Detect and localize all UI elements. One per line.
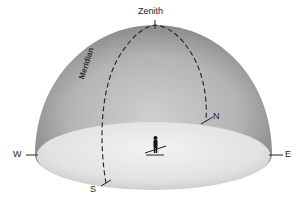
east-label: E <box>285 150 291 159</box>
zenith-label: Zenith <box>138 7 163 16</box>
dome-svg <box>0 0 305 205</box>
north-label: N <box>213 112 220 121</box>
west-label: W <box>13 150 22 159</box>
horizon-plane <box>37 122 271 190</box>
south-label: S <box>90 185 96 194</box>
celestial-dome-diagram: Zenith Meridian N S W E <box>0 0 305 205</box>
